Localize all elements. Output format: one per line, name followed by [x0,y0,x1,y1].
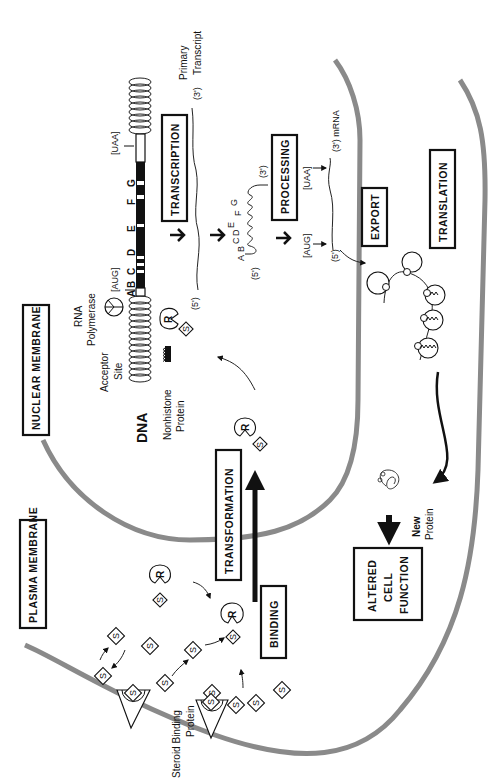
transcription-arrow [170,229,184,241]
svg-text:NUCLEAR MEMBRANE: NUCLEAR MEMBRANE [30,306,42,430]
processing-5prime-label: (5') [250,267,260,280]
svg-text:S: S [128,690,138,696]
steroid-entry-arrow-2 [172,660,188,676]
rna-polymerase-label: RNA [73,306,84,327]
svg-text:C: C [126,268,137,275]
receptor-to-dna-arrow [218,357,255,390]
receptor-steroid-complex-dna: R S [160,308,193,336]
nonhistone-protein-label-2: Protein [175,400,186,432]
new-protein-label: New [411,516,422,537]
svg-text:S: S [181,326,191,332]
svg-text:R: R [155,570,166,578]
export-step-box: EXPORT [362,188,387,246]
processing-arrow-1 [210,229,224,241]
nonhistone-protein [163,346,171,362]
svg-text:S: S [228,634,238,640]
dna-stop-codon-label: [UAA] [110,131,120,155]
svg-text:PROCESSING: PROCESSING [279,139,291,214]
svg-text:D: D [126,249,137,256]
svg-text:G: G [229,199,239,206]
transformed-receptor-complex: R S [235,418,268,451]
steroid-binding-protein-label: Steroid Binding [171,710,182,778]
svg-text:S: S [145,643,155,649]
steroid-entry-arrow-1 [100,648,108,660]
dna-label: DNA [134,413,150,443]
altered-cell-function-box: ALTERED CELL FUNCTION [354,548,422,620]
svg-text:EXPORT: EXPORT [369,194,381,240]
mrna-5prime-label: (5') [330,249,340,262]
processing-step-box: PROCESSING [272,135,297,220]
svg-text:C: C [231,237,241,244]
svg-text:S: S [206,699,216,705]
translation-to-protein-arrow [435,372,447,482]
mrna-stop-codon: [UAA] [302,166,312,190]
transcription-step-box: TRANSCRIPTION [162,115,187,221]
svg-text:S: S [98,673,108,679]
svg-text:B: B [126,281,137,288]
svg-text:FUNCTION: FUNCTION [398,556,410,614]
polysome [367,252,445,360]
svg-text:S: S [155,597,165,603]
processing-segment-labels: A B C D E F G [226,199,246,261]
svg-text:TRANSFORMATION: TRANSFORMATION [223,468,235,574]
svg-text:S: S [111,633,121,639]
translation-step-box: TRANSLATION [430,150,455,248]
steroid-entry-arrow-3 [241,670,243,688]
svg-text:TRANSCRIPTION: TRANSCRIPTION [169,123,181,216]
new-protein-label-2: Protein [424,508,435,540]
svg-text:E: E [226,222,236,228]
steroid-hormone-diagram: PLASMA MEMBRANE NUCLEAR MEMBRANE BINDING… [0,0,489,783]
svg-text:S: S [255,442,265,448]
rna-polymerase [105,298,123,316]
svg-text:E: E [126,225,137,232]
transformation-step-box: TRANSFORMATION [216,450,241,580]
svg-text:R: R [163,315,174,323]
steroid-to-receptor-arrow [205,638,224,645]
svg-text:S: S [231,702,241,708]
primary-transcript-label: Primary [178,46,189,80]
gene-segment-labels: G F E D C B A [125,179,137,297]
mrna-label: (3') mRNA [331,110,341,152]
svg-text:BINDING: BINDING [268,600,280,648]
receptor-to-binding-arrow [193,582,210,598]
processing-rna-loops [245,185,268,254]
svg-text:G: G [126,179,137,187]
svg-text:S: S [277,687,287,693]
svg-text:D: D [231,229,241,236]
svg-text:S: S [251,700,261,706]
svg-text:TRANSLATION: TRANSLATION [437,162,449,242]
svg-text:A: A [236,255,246,261]
binding-receptor-complex: R S [221,603,243,644]
acceptor-site-label-2: Site [113,362,124,380]
transcript-5prime-label: (5') [190,297,200,310]
plasma-membrane-line [25,80,485,754]
steroid-exit-arrow [112,650,125,668]
svg-text:B: B [236,246,246,252]
acceptor-site-label: Acceptor [99,352,110,392]
processing-arrow-2 [276,232,290,244]
svg-text:A: A [126,290,137,297]
svg-text:S: S [188,647,198,653]
rna-polymerase-label-2: Polymerase [86,293,97,346]
primary-transcript-label-2: Transcript [192,31,203,75]
nuclear-membrane-label: NUCLEAR MEMBRANE [23,305,49,435]
transcript-3prime-label: (3') [192,87,202,100]
dna-start-codon-label: [AUG] [110,267,120,292]
steroid-binding-protein-label-2: Protein [185,705,196,737]
mrna-line [329,158,333,250]
svg-text:S: S [160,680,170,686]
svg-text:R: R [240,423,251,431]
binding-step-box: BINDING [261,586,286,658]
svg-text:F: F [126,199,137,205]
svg-text:CELL: CELL [382,573,394,603]
primary-transcript-line [192,108,199,290]
svg-text:ALTERED: ALTERED [366,560,378,612]
svg-text:R: R [227,610,238,618]
svg-text:F: F [233,210,243,216]
new-protein-glyph [378,470,399,489]
svg-text:PLASMA MEMBRANE: PLASMA MEMBRANE [27,507,39,623]
plasma-membrane-label: PLASMA MEMBRANE [20,507,46,628]
nonhistone-protein-label: Nonhistone [162,389,173,440]
processing-3prime-label: (3') [258,165,268,178]
cytoplasmic-receptor: R S [150,565,171,607]
